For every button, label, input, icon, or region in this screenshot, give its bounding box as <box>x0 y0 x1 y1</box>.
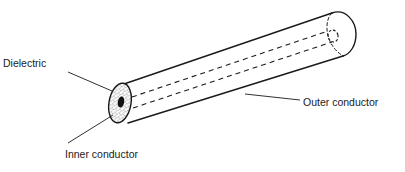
dielectric-leader <box>68 72 112 91</box>
dielectric-label: Dielectric <box>3 58 46 69</box>
coaxial-cable-diagram <box>0 0 405 172</box>
outer-conductor-label: Outer conductor <box>303 97 378 108</box>
inner-conductor-leader <box>68 115 113 143</box>
outer-conductor-leader <box>245 94 300 100</box>
inner-conductor-label: Inner conductor <box>65 149 138 160</box>
cable-end-face <box>106 81 135 124</box>
